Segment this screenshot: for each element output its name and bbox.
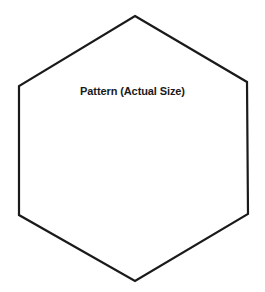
- hexagon-pattern-outline: [19, 16, 248, 281]
- pattern-diagram: [0, 0, 265, 292]
- pattern-title: Pattern (Actual Size): [0, 85, 265, 97]
